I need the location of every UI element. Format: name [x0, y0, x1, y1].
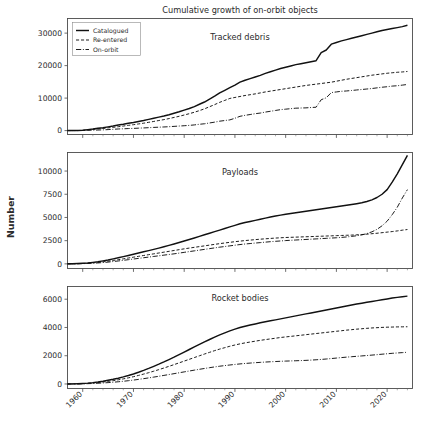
- figure-title: Cumulative growth of on-orbit objects: [162, 5, 317, 15]
- y-tick-label: 6000: [43, 295, 62, 304]
- x-tick-label: 1990: [216, 389, 236, 409]
- legend-label-catalogued: Catalogued: [93, 27, 128, 35]
- y-tick-label: 10000: [38, 167, 62, 176]
- x-tick-label: 1960: [64, 389, 84, 409]
- panel-2-title: Payloads: [222, 167, 258, 177]
- panel-3-x-ticks: 1960197019801990200020102020: [64, 389, 407, 410]
- legend-label-reentered: Re-entered: [93, 36, 127, 43]
- panel-1-y-ticks: 0100002000030000: [38, 29, 68, 135]
- figure-container: Cumulative growth of on-orbit objects Nu…: [0, 0, 426, 434]
- series-on-orbit: [68, 190, 408, 264]
- panel-2-y-ticks: 025005000750010000: [38, 167, 68, 269]
- panel-3-series: [68, 296, 408, 384]
- x-tick-label: 1980: [166, 389, 186, 409]
- y-tick-label: 4000: [43, 323, 62, 332]
- x-tick-label: 2020: [369, 389, 389, 409]
- series-re-entered: [68, 327, 408, 384]
- y-tick-label: 5000: [43, 213, 62, 222]
- legend[interactable]: Catalogued Re-entered On-orbit: [73, 23, 141, 56]
- panel-payloads: Payloads 025005000750010000: [38, 153, 413, 272]
- panel-3-y-ticks: 0200040006000: [43, 295, 68, 389]
- panel-3-title: Rocket bodies: [211, 293, 268, 303]
- series-re-entered: [68, 71, 408, 130]
- legend-label-onorbit: On-orbit: [93, 46, 119, 53]
- panel-2-x-ticks: [83, 269, 408, 272]
- chart-svg: Cumulative growth of on-orbit objects Nu…: [0, 0, 426, 434]
- y-tick-label: 0: [57, 380, 62, 389]
- y-tick-label: 20000: [38, 61, 62, 70]
- y-tick-label: 7500: [43, 190, 62, 199]
- x-tick-label: 2000: [267, 389, 287, 409]
- series-on-orbit: [68, 84, 408, 130]
- y-tick-label: 0: [57, 260, 62, 269]
- y-tick-label: 0: [57, 126, 62, 135]
- panel-1-title: Tracked debris: [209, 32, 269, 42]
- panel-1-x-ticks: [83, 135, 408, 138]
- y-tick-label: 2500: [43, 236, 62, 245]
- series-re-entered: [68, 230, 408, 264]
- series-on-orbit: [68, 352, 408, 384]
- x-tick-label: 1970: [115, 389, 135, 409]
- x-tick-label: 2010: [318, 389, 338, 409]
- y-axis-label: Number: [5, 196, 16, 238]
- series-catalogued: [68, 296, 408, 384]
- panel-rocket-bodies: Rocket bodies 0200040006000 196019701980…: [43, 287, 413, 410]
- y-tick-label: 10000: [38, 94, 62, 103]
- y-tick-label: 2000: [43, 351, 62, 360]
- y-tick-label: 30000: [38, 29, 62, 38]
